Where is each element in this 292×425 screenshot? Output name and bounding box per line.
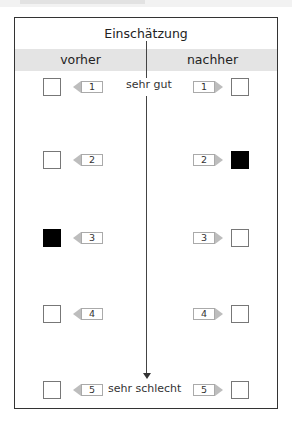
rating-number: 1 — [81, 81, 103, 93]
cut-off-heading-text — [20, 0, 145, 4]
checkbox-after-1[interactable] — [231, 78, 249, 96]
checkbox-before-4[interactable] — [43, 305, 61, 323]
arrow-left-icon — [73, 232, 81, 244]
rating-number: 2 — [81, 154, 103, 166]
rating-number: 4 — [193, 308, 215, 320]
checkbox-after-3[interactable] — [231, 229, 249, 247]
arrow-right-icon — [215, 384, 223, 396]
table-title: Einschätzung — [15, 26, 277, 41]
arrow-left-icon — [73, 154, 81, 166]
arrow-left-icon — [73, 81, 81, 93]
rating-tag-before-5: 5 — [73, 384, 103, 396]
arrow-right-icon — [215, 81, 223, 93]
arrow-right-icon — [215, 232, 223, 244]
rating-tag-before-4: 4 — [73, 308, 103, 320]
scale-top-label: sehr gut — [125, 78, 173, 91]
checkbox-after-2[interactable] — [231, 151, 249, 169]
scale-arrow-line — [146, 41, 147, 78]
scale-bottom-label: sehr schlecht — [107, 382, 182, 395]
checkbox-before-3[interactable] — [43, 229, 61, 247]
rating-number: 3 — [193, 232, 215, 244]
rating-tag-after-3: 3 — [193, 232, 223, 244]
column-header-after: nachher — [148, 49, 277, 71]
arrow-right-icon — [215, 308, 223, 320]
arrow-left-icon — [73, 384, 81, 396]
rating-tag-before-2: 2 — [73, 154, 103, 166]
checkbox-before-1[interactable] — [43, 78, 61, 96]
column-header-before: vorher — [15, 49, 146, 71]
rating-number: 2 — [193, 154, 215, 166]
checkbox-before-5[interactable] — [43, 381, 61, 399]
rating-number: 5 — [193, 384, 215, 396]
rating-tag-before-3: 3 — [73, 232, 103, 244]
arrow-left-icon — [73, 308, 81, 320]
rating-tag-before-1: 1 — [73, 81, 103, 93]
cut-off-heading — [0, 0, 292, 7]
arrow-down-icon — [143, 373, 151, 379]
scale-arrow-line — [146, 96, 147, 375]
rating-number: 4 — [81, 308, 103, 320]
checkbox-after-5[interactable] — [231, 381, 249, 399]
checkbox-before-2[interactable] — [43, 151, 61, 169]
rating-tag-after-2: 2 — [193, 154, 223, 166]
rating-tag-after-4: 4 — [193, 308, 223, 320]
arrow-right-icon — [215, 154, 223, 166]
assessment-table: Einschätzung vorher nachher sehr gut seh… — [14, 17, 278, 409]
rating-number: 1 — [193, 81, 215, 93]
checkbox-after-4[interactable] — [231, 305, 249, 323]
rating-tag-after-1: 1 — [193, 81, 223, 93]
rating-number: 3 — [81, 232, 103, 244]
rating-number: 5 — [81, 384, 103, 396]
rating-tag-after-5: 5 — [193, 384, 223, 396]
